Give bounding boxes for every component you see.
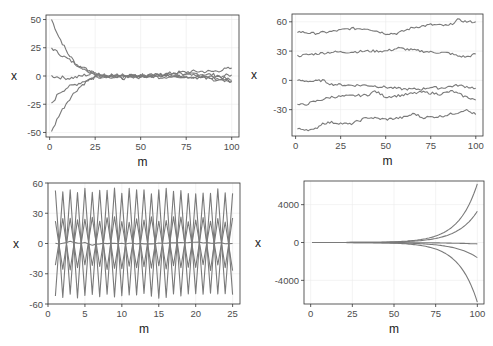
x-tick-label: 100 xyxy=(469,308,485,319)
y-axis: -50-2502550x xyxy=(11,14,46,138)
y-tick-label: 60 xyxy=(276,16,287,27)
y-tick-label: 30 xyxy=(276,46,287,57)
y-tick-label: -30 xyxy=(273,104,287,115)
panel-top-left: 0255075100m-50-2502550x xyxy=(11,14,240,169)
y-tick-label: 25 xyxy=(30,42,41,53)
x-tick-label: 10 xyxy=(117,308,128,319)
x-tick-label: 0 xyxy=(47,141,52,152)
panel-bottom-right: 0255075100m-400004000x xyxy=(255,181,485,336)
x-tick-label: 0 xyxy=(293,140,298,151)
x-tick-label: 5 xyxy=(82,308,87,319)
panel-bottom-left: 0510152025m-60-3003060x xyxy=(13,178,240,337)
y-axis-title: x xyxy=(255,236,261,250)
figure: 0255075100m-50-2502550x 0255075100m-3003… xyxy=(0,0,493,346)
y-tick-label: -50 xyxy=(27,127,41,138)
y-axis-title: x xyxy=(251,68,257,82)
x-axis-title: m xyxy=(139,322,149,336)
y-axis: -400004000x xyxy=(255,199,304,286)
y-tick-label: 0 xyxy=(38,238,43,249)
panel-top-right: 0255075100m-3003060x xyxy=(251,14,484,168)
x-axis: 0255075100m xyxy=(47,137,240,169)
x-axis-title: m xyxy=(389,322,399,336)
x-axis-title: m xyxy=(138,155,148,169)
y-tick-label: -30 xyxy=(29,268,43,279)
x-tick-label: 25 xyxy=(90,141,101,152)
x-tick-label: 0 xyxy=(45,308,50,319)
x-tick-label: 15 xyxy=(153,308,164,319)
x-tick-label: 25 xyxy=(347,308,358,319)
x-axis-title: m xyxy=(383,154,393,168)
x-tick-label: 100 xyxy=(468,140,484,151)
x-tick-label: 75 xyxy=(425,140,436,151)
y-tick-label: 0 xyxy=(36,71,41,82)
x-tick-label: 100 xyxy=(224,141,240,152)
y-axis-title: x xyxy=(11,69,17,83)
y-axis-title: x xyxy=(13,237,19,251)
x-tick-label: 75 xyxy=(181,141,192,152)
y-axis: -3003060x xyxy=(251,16,292,115)
x-tick-label: 25 xyxy=(335,140,346,151)
y-tick-label: 60 xyxy=(32,178,43,189)
x-tick-label: 50 xyxy=(135,141,146,152)
x-tick-label: 75 xyxy=(430,308,441,319)
y-tick-label: 0 xyxy=(282,75,287,86)
x-tick-label: 50 xyxy=(380,140,391,151)
x-tick-label: 20 xyxy=(190,308,201,319)
x-axis: 0510152025m xyxy=(45,304,238,336)
x-tick-label: 25 xyxy=(227,308,238,319)
y-axis: -60-3003060x xyxy=(13,178,48,310)
y-tick-label: 4000 xyxy=(278,199,299,210)
x-axis: 0255075100m xyxy=(293,136,484,168)
y-tick-label: -60 xyxy=(29,299,43,310)
y-tick-label: 0 xyxy=(294,237,299,248)
y-tick-label: 50 xyxy=(30,14,41,25)
x-tick-label: 50 xyxy=(389,308,400,319)
x-tick-label: 0 xyxy=(308,308,313,319)
x-axis: 0255075100m xyxy=(308,304,485,336)
y-tick-label: -25 xyxy=(27,99,41,110)
y-tick-label: -4000 xyxy=(275,275,299,286)
y-tick-label: 30 xyxy=(32,208,43,219)
